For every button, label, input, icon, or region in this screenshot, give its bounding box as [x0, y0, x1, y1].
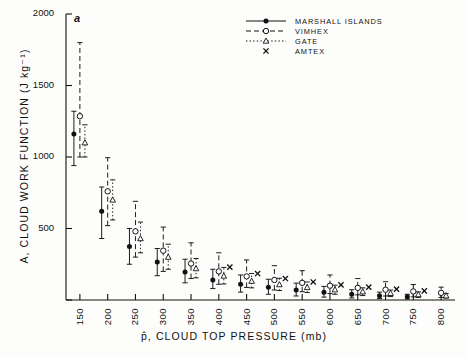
series-marshall-islands	[71, 111, 410, 299]
marker-triangle	[332, 287, 338, 292]
legend-key-amtex	[244, 46, 288, 56]
marker-triangle	[360, 289, 366, 294]
marker-filled-circle	[321, 290, 326, 295]
y-tick-label: 1000	[12, 150, 54, 161]
legend-key-vimhex	[244, 26, 288, 36]
marker-filled-circle	[264, 19, 269, 24]
marker-triangle	[193, 266, 199, 271]
legend-item-amtex: AMTEX	[244, 46, 383, 56]
x-tick-label: 400	[213, 308, 224, 325]
marker-triangle	[110, 197, 116, 202]
marker-triangle	[388, 290, 394, 295]
marker-filled-circle	[210, 277, 215, 282]
marker-open-circle	[161, 248, 166, 253]
marker-filled-circle	[183, 270, 188, 275]
legend-item-vimhex: VIMHEX	[244, 26, 383, 36]
y-tick-label: 1500	[12, 79, 54, 90]
x-tick-label: 200	[102, 308, 113, 325]
x-tick-label: 300	[157, 308, 168, 325]
marker-open-circle	[272, 277, 277, 282]
chart-legend: MARSHALL ISLANDSVIMHEXGATEAMTEX	[244, 16, 383, 56]
x-tick-label: 150	[74, 308, 85, 325]
x-axis-title-text: p̂, CLOUD TOP PRESSURE (mb)	[141, 330, 327, 342]
marker-open-circle	[263, 28, 268, 33]
marker-triangle	[165, 254, 171, 259]
marker-open-circle	[244, 274, 249, 279]
x-tick-label: 800	[435, 308, 446, 325]
x-axis-title: p̂, CLOUD TOP PRESSURE (mb)	[0, 330, 468, 342]
marker-triangle	[221, 273, 227, 278]
series-vimhex	[77, 43, 444, 298]
marker-filled-circle	[155, 260, 160, 265]
legend-label: AMTEX	[295, 47, 325, 56]
marker-filled-circle	[127, 244, 132, 249]
marker-open-circle	[355, 285, 360, 290]
marker-open-circle	[133, 229, 138, 234]
x-tick-label: 500	[268, 308, 279, 325]
x-tick-label: 600	[324, 308, 335, 325]
legend-label: MARSHALL ISLANDS	[295, 17, 383, 26]
marker-filled-circle	[99, 209, 104, 214]
marker-open-circle	[411, 289, 416, 294]
legend-key-gate	[244, 36, 288, 46]
marker-filled-circle	[266, 285, 271, 290]
marker-triangle	[249, 278, 255, 283]
panel-label: a	[74, 12, 80, 24]
y-tick-label: 2000	[12, 7, 54, 18]
marker-triangle	[82, 140, 88, 145]
marker-open-circle	[77, 114, 82, 119]
legend-label: VIMHEX	[295, 27, 329, 36]
legend-key-marshall	[244, 16, 288, 26]
x-tick-label: 350	[185, 308, 196, 325]
y-tick-label: 500	[12, 222, 54, 233]
x-tick-label: 250	[129, 308, 140, 325]
marker-filled-circle	[71, 132, 76, 137]
marker-open-circle	[327, 283, 332, 288]
marker-filled-circle	[349, 292, 354, 297]
figure-panel: a A, CLOUD WORK FUNCTION (J kg⁻¹) p̂, CL…	[0, 0, 468, 358]
marker-open-circle	[438, 290, 443, 295]
x-tick-label: 550	[296, 308, 307, 325]
marker-triangle	[277, 282, 283, 287]
marker-triangle	[304, 284, 310, 289]
series-amtex	[227, 265, 427, 294]
x-tick-label: 700	[380, 308, 391, 325]
series-gate	[82, 125, 449, 298]
x-tick-label: 650	[352, 308, 363, 325]
marker-open-circle	[299, 280, 304, 285]
marker-filled-circle	[238, 282, 243, 287]
marker-triangle	[138, 236, 144, 241]
marker-open-circle	[216, 269, 221, 274]
marker-filled-circle	[377, 293, 382, 298]
x-tick-label: 450	[241, 308, 252, 325]
chart-canvas	[0, 0, 468, 358]
legend-item-marshall: MARSHALL ISLANDS	[244, 16, 383, 26]
marker-open-circle	[188, 261, 193, 266]
legend-label: GATE	[295, 37, 318, 46]
marker-filled-circle	[405, 294, 410, 299]
marker-open-circle	[105, 189, 110, 194]
x-tick-label: 750	[407, 308, 418, 325]
marker-open-circle	[383, 287, 388, 292]
marker-filled-circle	[294, 287, 299, 292]
legend-item-gate: GATE	[244, 36, 383, 46]
